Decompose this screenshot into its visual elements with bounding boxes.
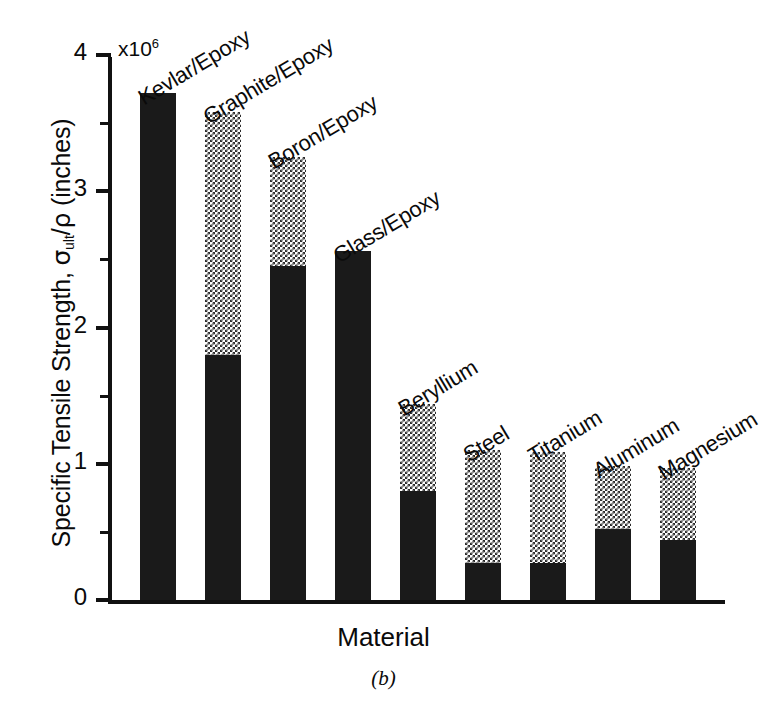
bar-boron-epoxy	[270, 157, 306, 600]
bar-steel	[465, 450, 501, 600]
bar-titanium	[530, 452, 566, 601]
y-tick-label-4: 4	[74, 40, 87, 64]
bar-segment-solid	[270, 266, 306, 600]
figure-caption: (b)	[0, 666, 767, 691]
y-tick-major-1: 1	[96, 462, 111, 466]
y-tick-label-3: 3	[74, 176, 87, 200]
bar-segment-solid	[140, 93, 176, 600]
y-axis-title-lead: Specific Tensile Strength,	[47, 266, 75, 548]
y-tick-minor-2.5	[100, 258, 110, 261]
y-tick-minor-3.5	[100, 122, 110, 125]
bar-segment-solid	[205, 355, 241, 600]
bar-segment-dotted	[465, 450, 501, 563]
bar-segment-solid	[465, 563, 501, 600]
y-tick-major-3: 3	[96, 189, 111, 193]
y-axis-rho-symbol: ρ	[47, 213, 76, 229]
bar-aluminum	[595, 466, 631, 600]
y-axis-line	[108, 57, 112, 602]
y-axis-title: Specific Tensile Strength, σult/ρ (inche…	[47, 43, 77, 623]
bar-beryllium	[400, 404, 436, 600]
y-tick-major-0: 0	[96, 598, 111, 602]
bar-segment-dotted	[530, 452, 566, 564]
y-tick-major-2: 2	[96, 326, 111, 330]
bar-kevlar-epoxy	[140, 93, 176, 600]
y-axis-divider: /	[47, 228, 75, 235]
bar-segment-solid	[530, 563, 566, 600]
x-axis-line	[108, 600, 725, 604]
y-axis-exponent-power: 6	[152, 36, 159, 51]
y-tick-label-1: 1	[74, 449, 87, 473]
y-tick-label-0: 0	[74, 585, 87, 609]
y-axis-units: (inches)	[47, 119, 75, 213]
plot-area: 01234	[108, 57, 725, 602]
y-tick-minor-1.5	[100, 395, 110, 398]
bar-graphite-epoxy	[205, 112, 241, 600]
bar-segment-dotted	[205, 112, 241, 355]
y-axis-sigma-subscript: ult	[61, 235, 77, 250]
y-tick-major-4: 4	[96, 53, 111, 57]
figure-specific-tensile-strength-chart: Specific Tensile Strength, σult/ρ (inche…	[0, 0, 767, 705]
x-axis-title: Material	[0, 622, 767, 653]
bar-segment-solid	[595, 529, 631, 600]
y-tick-minor-0.5	[100, 531, 110, 534]
y-axis-sigma-symbol: σ	[47, 250, 76, 266]
bar-segment-solid	[400, 491, 436, 600]
bar-glass-epoxy	[335, 251, 371, 600]
y-tick-label-2: 2	[74, 313, 87, 337]
bar-segment-solid	[660, 540, 696, 600]
bar-magnesium	[660, 468, 696, 600]
bar-segment-solid	[335, 251, 371, 600]
